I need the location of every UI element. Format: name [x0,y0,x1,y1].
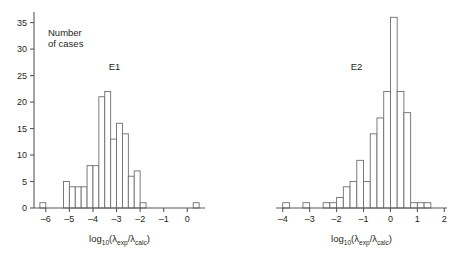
histogram-bar [404,113,411,208]
y-tick-label: 5 [22,177,27,187]
histogram-bar [337,197,344,208]
histogram-bar [117,123,123,208]
histogram-bar [105,91,111,208]
histogram-bar [384,91,391,208]
y-tick-label: 15 [17,124,27,134]
x-tick-label: 0 [185,214,190,224]
histogram-bar [370,134,377,208]
x-tick-label: 1 [415,214,420,224]
panel-e1: –6–5–4–3–2–1005101520253035Numberof case… [17,12,205,247]
x-tick-label: –4 [88,214,98,224]
histogram-bar [122,134,128,208]
histogram-figure: –6–5–4–3–2–1005101520253035Numberof case… [0,0,473,259]
histogram-bar [390,17,397,208]
histogram-bar [69,187,75,208]
x-tick-label: –5 [64,214,74,224]
y-axis-title-line1: Number [48,27,82,38]
x-axis-title: log10(λexp/λcalc) [331,233,392,247]
y-tick-label: 10 [17,150,27,160]
x-tick-label: –2 [332,214,342,224]
histogram-bar [424,203,431,208]
histogram-bar [99,97,105,208]
histogram-bar [343,187,350,208]
histogram-bar [140,203,146,208]
histogram-bar [377,118,384,208]
y-tick-label: 35 [17,18,27,28]
histogram-bar [93,166,99,208]
y-axis-title-line2: of cases [48,38,84,49]
histogram-bar [128,176,134,208]
histogram-bar [111,139,117,208]
x-tick-label: –2 [135,214,145,224]
x-tick-label: –3 [305,214,315,224]
x-tick-label: –3 [112,214,122,224]
histogram-bar [330,203,337,208]
histogram-bar [283,203,290,208]
histogram-bar [364,182,371,208]
histogram-bar [75,187,81,208]
figure-root: –6–5–4–3–2–1005101520253035Numberof case… [0,0,473,259]
panel-title-e1: E1 [109,61,121,72]
x-axis-title: log10(λexp/λcalc) [89,233,150,247]
x-tick-label: –6 [41,214,51,224]
histogram-bar [397,91,404,208]
histogram-bar [357,160,364,208]
panel-e2: –4–3–2–1012E2log10(λexp/λcalc) [276,17,447,246]
y-tick-label: 20 [17,97,27,107]
y-tick-label: 25 [17,71,27,81]
histogram-bar [40,203,46,208]
histogram-bar [303,203,310,208]
x-tick-label: 0 [388,214,393,224]
y-tick-label: 0 [22,203,27,213]
x-tick-label: –1 [159,214,169,224]
histogram-bar [411,203,418,208]
histogram-bar [417,203,424,208]
x-tick-label: –1 [359,214,369,224]
x-tick-label: 2 [442,214,447,224]
histogram-bar [323,203,330,208]
x-tick-label: –4 [278,214,288,224]
histogram-bar [81,187,87,208]
histogram-bar [134,171,140,208]
histogram-bar [350,182,357,208]
histogram-bar [63,182,69,208]
histogram-bar [193,203,199,208]
y-tick-label: 30 [17,44,27,54]
panel-title-e2: E2 [351,61,363,72]
histogram-bar [87,166,93,208]
